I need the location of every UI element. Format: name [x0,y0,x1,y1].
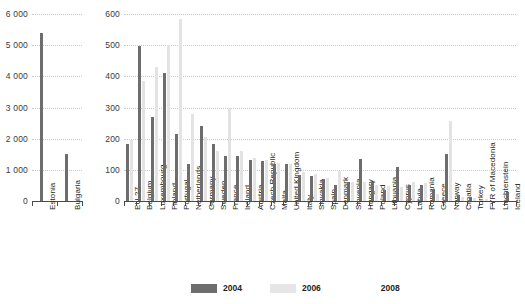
bar-2004 [273,164,276,201]
x-axis-tick [173,201,174,206]
bar-2004 [285,164,288,201]
gridline [124,139,516,140]
y-axis-tick-label: 200 [88,134,120,144]
bar-2004 [322,179,325,201]
left-panel: 01 0002 0003 0004 0005 0006 000EstoniaBu… [0,8,88,204]
y-axis-tick-label: 300 [88,103,120,113]
x-axis-tick [234,201,235,206]
x-axis-tick [467,201,468,206]
x-axis-tick [185,201,186,206]
x-axis-tick [271,201,272,206]
bar-2004 [383,190,386,201]
bar-2006 [179,19,182,201]
y-axis-tick-label: 0 [0,196,28,206]
x-axis-tick [222,201,223,206]
bar-2004 [138,46,141,201]
x-axis-tick [492,201,493,206]
x-axis-tick [516,201,517,206]
right-panel: 0100200300400500600EU-27BelgiumLuxembour… [88,8,525,204]
y-axis-tick-label: 5 000 [0,40,28,50]
legend-item-2004: 2004 [191,283,270,293]
x-axis-tick [357,201,358,206]
gridline [124,76,516,77]
legend-label-2008: 2008 [381,283,400,293]
bar-2004 [445,154,448,201]
bar-2004 [469,197,472,201]
bar-2004 [408,185,411,201]
bar-2004 [310,176,313,201]
y-axis-tick-label: 400 [88,71,120,81]
bar-2004 [187,164,190,201]
x-axis-tick [394,201,395,206]
x-axis-tick [259,201,260,206]
bar-2004 [126,144,129,201]
gridline [124,108,516,109]
bar-2004 [359,159,362,201]
y-axis-tick-label: 100 [88,165,120,175]
bar-2004 [347,182,350,201]
x-axis-tick [308,201,309,206]
x-axis-tick [418,201,419,206]
bar-2004 [65,154,68,201]
bar-2004 [396,167,399,201]
chart-root: 01 0002 0003 0004 0005 0006 000EstoniaBu… [0,0,525,304]
legend-swatch-2006 [270,284,296,293]
legend-item-2006: 2006 [270,283,349,293]
bar-2004 [236,156,239,201]
bar-2004 [506,192,509,201]
y-axis-tick-label: 6 000 [0,9,28,19]
x-axis-tick [161,201,162,206]
gridline [124,170,516,171]
x-axis-tick [210,201,211,206]
bar-2004 [371,182,374,201]
bar-2004 [200,126,203,201]
gridline [124,14,516,15]
y-axis-tick-label: 3 000 [0,103,28,113]
bar-2004 [298,175,301,201]
y-axis-tick-label: 600 [88,9,120,19]
x-axis-tick [320,201,321,206]
y-axis-tick-label: 0 [88,196,120,206]
x-axis-tick [345,201,346,206]
x-axis-tick [296,201,297,206]
bar-2004 [224,156,227,201]
x-axis-tick [82,201,83,206]
x-axis-tick [381,201,382,206]
gridline [124,45,516,46]
x-axis-tick [247,201,248,206]
x-axis-tick [479,201,480,206]
x-axis-tick [369,201,370,206]
y-axis-tick-label: 1 000 [0,165,28,175]
legend-label-2006: 2006 [302,283,321,293]
bar-2004 [40,33,43,201]
x-axis-tick [430,201,431,206]
x-axis-category-label: Bulgaria [73,180,82,210]
legend-label-2004: 2004 [223,283,242,293]
legend-item-2008: 2008 [349,283,428,293]
x-axis-category-label: Estonia [48,183,57,210]
x-axis-category-label: FYR of Macedonia [488,142,497,210]
bar-2004 [420,185,423,201]
x-axis-tick [32,201,33,206]
x-axis-tick [149,201,150,206]
bar-2004 [261,161,264,201]
x-axis-category-label: Turkey [476,185,485,210]
bar-2006 [167,45,170,201]
x-axis-tick [136,201,137,206]
bar-2004 [432,189,435,201]
x-axis-tick [443,201,444,206]
legend: 2004 2006 2008 [191,283,428,293]
bar-2004 [249,160,252,201]
x-axis-tick [332,201,333,206]
bar-2004 [334,185,337,201]
bar-2004 [151,117,154,201]
x-axis-category-label: Liechtenstein [501,162,510,210]
x-axis-tick [455,201,456,206]
x-axis-tick [198,201,199,206]
gridline [32,14,82,15]
bar-2004 [163,73,166,201]
x-axis-tick [406,201,407,206]
x-axis-tick [283,201,284,206]
bar-2004 [175,134,178,201]
y-axis-tick-label: 4 000 [0,71,28,81]
